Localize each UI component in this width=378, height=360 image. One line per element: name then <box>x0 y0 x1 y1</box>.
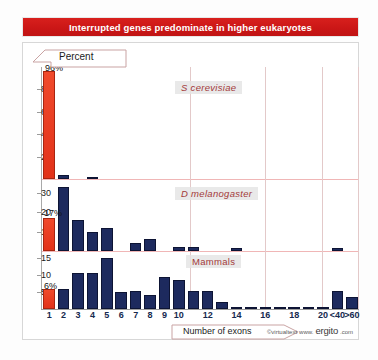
panel-label-mammals: Mammals <box>186 255 241 268</box>
xtick-8: 8 <box>148 310 153 320</box>
bar-2-<40 <box>332 291 344 309</box>
panel-s-cerevisiae: 80 60 40 20 96% S cerevisiae <box>23 67 360 179</box>
bar-0-1 <box>43 71 55 179</box>
xtick-4: 4 <box>90 310 95 320</box>
xtick-14: 14 <box>232 310 242 320</box>
figure-root: Interrupted genes predominate in higher … <box>0 0 378 360</box>
xtick-2: 2 <box>61 310 66 320</box>
panel-label-s-cerevisiae: S cerevisiae <box>175 81 242 94</box>
credit-tld: .com <box>340 329 353 335</box>
bar-2-3 <box>72 273 84 309</box>
bar-2->60 <box>346 297 358 309</box>
bar-2-12 <box>202 291 214 309</box>
bar-value-label-2: 6% <box>44 281 57 291</box>
credit-www: www. <box>299 329 313 335</box>
xtick-3: 3 <box>76 310 81 320</box>
bar-2-11 <box>188 291 200 309</box>
panel-mammals: 15 10 5 6% Mammals <box>23 251 360 309</box>
credit-copyright: ©virtualtext <box>267 329 297 335</box>
bar-2-2 <box>58 289 70 309</box>
xtick-<40: <40 <box>330 310 345 320</box>
xtick-1: 1 <box>47 310 52 320</box>
xtick-18: 18 <box>289 310 299 320</box>
yaxis-title-banner: Percent <box>31 49 127 68</box>
bar-2-1 <box>43 289 55 309</box>
bar-1-4 <box>87 232 99 251</box>
bar-1-1 <box>43 218 55 251</box>
xtick-10: 10 <box>174 310 184 320</box>
bar-2-8 <box>144 295 156 309</box>
bar-2-13 <box>216 302 228 309</box>
chart-container: Percent 80 60 40 20 96% S cerevisiae <box>22 42 359 340</box>
bar-1-5 <box>101 228 113 251</box>
xtick-5: 5 <box>104 310 109 320</box>
xaxis-tick-labels: 123456789101214161820<40>60 <box>23 310 360 324</box>
credit-line: ©virtualtext www. ergito .com <box>267 325 353 336</box>
xtick-6: 6 <box>119 310 124 320</box>
xtick-16: 16 <box>260 310 270 320</box>
panel-d-melanogaster: 30 20 10 17% D melanogaster <box>23 179 360 251</box>
bar-1-7 <box>130 243 142 251</box>
bar-2-7 <box>130 291 142 309</box>
bar-1-3 <box>72 220 84 251</box>
xtick-20: 20 <box>318 310 328 320</box>
xtick-12: 12 <box>203 310 213 320</box>
bar-1-8 <box>144 239 156 251</box>
xtick-7: 7 <box>133 310 138 320</box>
panel-label-d-melanogaster: D melanogaster <box>175 187 258 200</box>
bar-1-2 <box>58 187 70 251</box>
xaxis-title-label: Number of exons <box>183 326 252 336</box>
bar-2-4 <box>87 273 99 309</box>
page-title: Interrupted genes predominate in higher … <box>69 22 312 33</box>
bar-2-9 <box>159 277 171 309</box>
xtick->60: >60 <box>344 310 359 320</box>
bar-2-10 <box>173 280 185 309</box>
yaxis-title-label: Percent <box>59 51 93 62</box>
bar-2-6 <box>115 292 127 309</box>
xtick-9: 9 <box>162 310 167 320</box>
figure-title-bar: Interrupted genes predominate in higher … <box>22 17 359 37</box>
bar-value-label-1: 17% <box>44 208 62 218</box>
bar-2-5 <box>101 258 113 309</box>
credit-brand: ergito <box>315 325 338 336</box>
